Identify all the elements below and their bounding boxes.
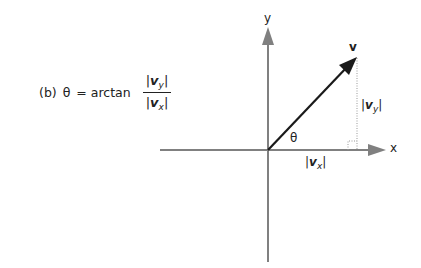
x-axis-arrowhead <box>368 144 386 156</box>
y-axis-label: y <box>264 11 271 25</box>
angle-theta-label: θ <box>290 131 297 145</box>
right-angle-marker <box>348 141 357 150</box>
x-axis-label: x <box>390 141 397 155</box>
vector-diagram <box>0 0 421 268</box>
vector-label: v <box>349 40 357 54</box>
y-axis-arrowhead <box>262 27 274 45</box>
vy-magnitude-label: |vy| <box>361 98 382 114</box>
vx-magnitude-label: |vx| <box>305 155 326 171</box>
vector-v <box>268 66 348 150</box>
